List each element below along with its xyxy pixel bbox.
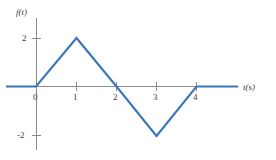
x-tick-label-0: 0 bbox=[33, 93, 38, 102]
x-tick-label-1: 1 bbox=[73, 93, 78, 102]
x-tick-label-3: 3 bbox=[153, 93, 158, 102]
x-axis-title: t(s) bbox=[243, 83, 255, 92]
triangular-waveform-figure: f(t) t(s) 0 1 2 3 4 2 -2 bbox=[0, 0, 276, 160]
y-tick-label-pos2: 2 bbox=[22, 34, 27, 43]
x-tick-label-4: 4 bbox=[193, 93, 198, 102]
plot-canvas bbox=[0, 0, 276, 160]
y-tick-label-neg2: -2 bbox=[17, 131, 25, 140]
y-axis-title: f(t) bbox=[16, 8, 27, 17]
x-tick-label-2: 2 bbox=[113, 93, 118, 102]
